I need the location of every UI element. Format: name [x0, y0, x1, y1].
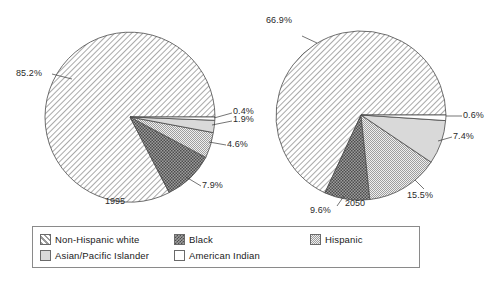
pie-chart-2050: [276, 31, 462, 206]
label-2050-asian-pacific-islander: 7.4%: [453, 131, 474, 141]
label-2050-black: 9.6%: [310, 205, 331, 215]
label-2050-american-indian: 0.6%: [463, 110, 484, 120]
pie-chart-1995: [45, 32, 232, 202]
swatch-hispanic-icon: [310, 234, 321, 245]
legend-item-hispanic: Hispanic: [310, 232, 363, 246]
legend-label-american-indian: American Indian: [189, 250, 260, 261]
label-1995-black: 7.9%: [202, 180, 223, 190]
swatch-black-icon: [174, 234, 185, 245]
legend: Non-Hispanic white Black Hispanic Asian/…: [32, 226, 420, 268]
swatch-non-hispanic-white-icon: [40, 234, 51, 245]
legend-label-hispanic: Hispanic: [325, 234, 363, 245]
legend-label-non-hispanic-white: Non-Hispanic white: [55, 234, 140, 245]
legend-item-black: Black: [174, 232, 264, 246]
swatch-asian-pacific-islander-icon: [40, 250, 51, 261]
label-2050-non-hispanic-white: 66.9%: [266, 15, 292, 25]
year-label-2050: 2050: [345, 198, 365, 208]
legend-item-non-hispanic-white: Non-Hispanic white: [40, 232, 164, 246]
swatch-american-indian-icon: [174, 250, 185, 261]
label-1995-non-hispanic-white: 85.2%: [16, 68, 42, 78]
legend-item-asian-pacific-islander: Asian/Pacific Islander: [40, 248, 164, 262]
legend-label-black: Black: [189, 234, 213, 245]
label-1995-asian-pacific-islander: 1.9%: [233, 114, 254, 124]
label-2050-hispanic: 15.5%: [407, 190, 433, 200]
year-label-1995: 1995: [105, 196, 125, 206]
legend-item-american-indian: American Indian: [174, 248, 260, 262]
legend-label-asian-pacific-islander: Asian/Pacific Islander: [55, 250, 149, 261]
label-1995-hispanic: 4.6%: [227, 139, 248, 149]
